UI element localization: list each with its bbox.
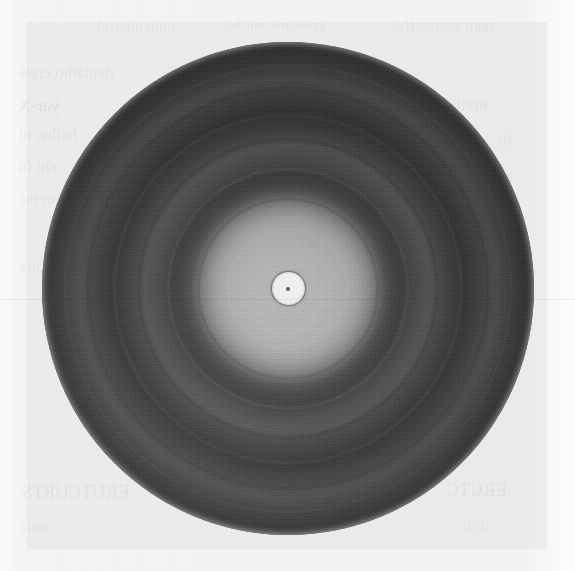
figure-page: noitcudortnIerutcurts eht fosgnir noitca… xyxy=(0,0,575,571)
primary-beam-spot xyxy=(286,287,290,291)
diffraction-photograph xyxy=(42,42,534,535)
beam-stop-shadow xyxy=(272,272,305,305)
